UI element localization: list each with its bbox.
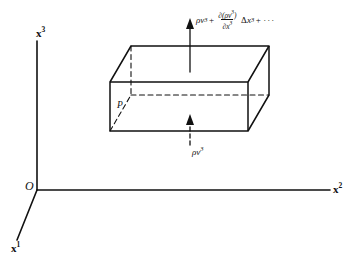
coordinate-axes	[17, 41, 330, 240]
axis-label-x3-exponent: 3	[42, 25, 46, 34]
flux-in-label: ρν3	[192, 146, 204, 157]
flux-out-fraction: ∂(ρν3) ∂x3	[217, 10, 237, 30]
numerator-close-paren: )	[234, 10, 237, 19]
flux-out-label: ρν3 + ∂(ρν3) ∂x3 Δx3 +···	[196, 10, 275, 30]
axis-label-x2: x2	[333, 182, 342, 195]
flux-out-ellipsis: ···	[262, 16, 275, 25]
flux-in-exponent: 3	[200, 145, 203, 152]
axis-x1-line	[17, 190, 37, 240]
flux-in-arrow	[186, 114, 194, 145]
figure-linework	[0, 0, 356, 264]
origin-label: O	[25, 180, 34, 192]
flux-out-trailing-plus: +	[254, 16, 262, 25]
axis-label-x3: x3	[36, 26, 45, 39]
axis-label-x2-exponent: 2	[339, 181, 343, 190]
axis-label-x1: x1	[11, 241, 20, 254]
flux-out-expression: ρν3 + ∂(ρν3) ∂x3 Δx3 +···	[196, 10, 275, 30]
flux-out-plus-sign: +	[208, 16, 216, 25]
axis-label-x1-exponent: 1	[17, 240, 21, 249]
flux-out-fraction-numerator: ∂(ρν3)	[217, 10, 237, 20]
flux-out-arrow	[186, 18, 194, 72]
flux-out-delta-symbol: Δ	[239, 16, 247, 25]
flux-out-fraction-denominator: ∂x3	[221, 19, 233, 30]
denominator-exponent: 3	[230, 20, 233, 26]
box-right-face	[248, 46, 269, 131]
flux-in-arrow-head	[186, 114, 194, 125]
flux-out-arrow-head	[186, 18, 194, 29]
point-p-label: P	[117, 101, 123, 111]
physics-control-volume-figure: x3 x2 x1 O P ρν3 ρν3 + ∂(ρν3) ∂x3 Δx3 +·…	[0, 0, 356, 264]
